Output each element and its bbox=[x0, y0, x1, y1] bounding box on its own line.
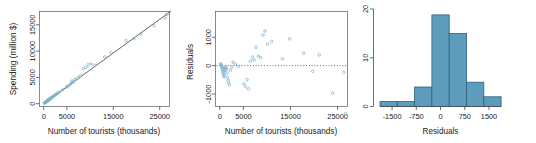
histogram-bar-2 bbox=[397, 102, 414, 107]
residual-points bbox=[219, 30, 347, 115]
histogram-ytick-20: 20 bbox=[361, 5, 370, 13]
histogram-xtick-0: 0 bbox=[438, 112, 442, 121]
histogram-xtick-1500: 1500 bbox=[481, 112, 497, 121]
scatter-ytick-15000: 15000 bbox=[28, 15, 37, 36]
histogram-xtick-neg1500: -1500 bbox=[383, 112, 402, 121]
residual-x-axis-label: Number of tourists (thousands) bbox=[225, 127, 338, 136]
residual-ytick-neg1000: -1000 bbox=[204, 85, 213, 104]
histogram-bar-1 bbox=[380, 102, 397, 107]
panel-residuals-vs-tourists: -1000 0 1000 Residuals 0 5000 15000 2500… bbox=[178, 0, 360, 143]
histogram-xtick-neg750: -750 bbox=[409, 112, 424, 121]
histogram-ytick-10: 10 bbox=[361, 54, 370, 62]
scatter-fit-line bbox=[44, 11, 171, 104]
scatter-xtick-5000: 5000 bbox=[59, 112, 75, 121]
scatter-xtick-0: 0 bbox=[42, 112, 46, 121]
histogram-bar-3 bbox=[415, 87, 432, 107]
scatter-xtick-25000: 25000 bbox=[149, 112, 170, 121]
histogram-bar-4 bbox=[432, 15, 449, 107]
residual-x-axis: 0 5000 15000 25000 Number of tourists (t… bbox=[218, 107, 348, 137]
residual-plot-svg: -1000 0 1000 Residuals 0 5000 15000 2500… bbox=[178, 0, 360, 143]
histogram-bar-7 bbox=[484, 97, 501, 107]
scatter-ytick-0: 0 bbox=[28, 102, 37, 106]
residual-xtick-0: 0 bbox=[218, 112, 222, 121]
scatter-x-axis-label: Number of tourists (thousands) bbox=[48, 127, 161, 136]
panel-residual-histogram: 0 10 20 -1500 -750 bbox=[356, 0, 536, 143]
histogram-svg: 0 10 20 -1500 -750 bbox=[356, 0, 536, 143]
scatter-x-axis: 0 5000 15000 25000 Number of tourists (t… bbox=[42, 107, 170, 137]
histogram-ytick-0: 0 bbox=[361, 104, 370, 108]
residual-ytick-1000: 1000 bbox=[204, 29, 213, 45]
histogram-x-axis: -1500 -750 0 750 1500 Residuals bbox=[380, 107, 501, 137]
residual-xtick-15000: 15000 bbox=[280, 112, 301, 121]
three-panel-regression-figure: 0 5000 10000 15000 Spending (million $) … bbox=[0, 0, 536, 143]
residual-ytick-0: 0 bbox=[204, 64, 213, 68]
histogram-bar-5 bbox=[449, 33, 466, 106]
histogram-y-axis: 0 10 20 bbox=[361, 5, 373, 109]
residual-y-axis-label: Residuals bbox=[186, 44, 195, 80]
scatter-xtick-15000: 15000 bbox=[103, 112, 124, 121]
scatter-ytick-10000: 10000 bbox=[28, 41, 37, 62]
histogram-bar-6 bbox=[467, 82, 484, 106]
histogram-bars bbox=[380, 15, 501, 107]
panel-spending-vs-tourists: 0 5000 10000 15000 Spending (million $) … bbox=[0, 0, 180, 143]
scatter-ytick-5000: 5000 bbox=[28, 69, 37, 85]
histogram-x-axis-label: Residuals bbox=[423, 127, 459, 136]
residual-xtick-5000: 5000 bbox=[235, 112, 251, 121]
residual-y-axis: -1000 0 1000 Residuals bbox=[186, 29, 215, 103]
scatter-plot-svg: 0 5000 10000 15000 Spending (million $) … bbox=[0, 0, 180, 143]
scatter-y-axis: 0 5000 10000 15000 Spending (million $) bbox=[9, 15, 39, 106]
histogram-xtick-750: 750 bbox=[459, 112, 471, 121]
scatter-y-axis-label: Spending (million $) bbox=[9, 23, 18, 96]
